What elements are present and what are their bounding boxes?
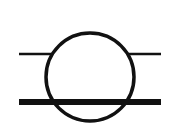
background: [0, 0, 179, 128]
circle-line-symbol-icon: [0, 0, 179, 128]
diagram-canvas: Circle symbol between two horizontal lin…: [0, 0, 179, 128]
